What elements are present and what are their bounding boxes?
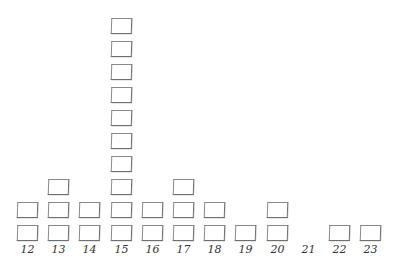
data-marker-square — [111, 179, 133, 195]
data-marker-square — [267, 202, 289, 218]
data-marker-square — [360, 225, 382, 241]
x-tick-label: 22 — [324, 243, 355, 256]
data-marker-square — [235, 225, 257, 241]
data-marker-square — [79, 225, 101, 241]
data-marker-square — [17, 225, 39, 241]
data-marker-square — [173, 179, 195, 195]
data-marker-square — [17, 202, 39, 218]
x-tick-label: 14 — [74, 243, 105, 256]
x-tick-label: 16 — [137, 243, 168, 256]
data-marker-square — [204, 202, 226, 218]
x-tick-label: 18 — [199, 243, 230, 256]
x-tick-label: 17 — [168, 243, 199, 256]
data-marker-square — [111, 87, 133, 103]
data-marker-square — [173, 225, 195, 241]
data-marker-square — [204, 225, 226, 241]
data-marker-square — [267, 225, 289, 241]
data-marker-square — [48, 179, 70, 195]
data-marker-square — [142, 225, 164, 241]
data-marker-square — [111, 110, 133, 126]
data-marker-square — [111, 202, 133, 218]
data-marker-square — [48, 202, 70, 218]
data-marker-square — [173, 202, 195, 218]
x-tick-label: 13 — [43, 243, 74, 256]
data-marker-square — [111, 64, 133, 80]
data-marker-square — [329, 225, 351, 241]
data-marker-square — [79, 202, 101, 218]
x-tick-label: 21 — [293, 243, 324, 256]
x-tick-label: 19 — [230, 243, 261, 256]
data-marker-square — [111, 156, 133, 172]
data-marker-square — [111, 18, 133, 34]
data-marker-square — [142, 202, 164, 218]
data-marker-square — [48, 225, 70, 241]
dot-plot: 121314151617181920212223 — [0, 0, 409, 274]
data-marker-square — [111, 41, 133, 57]
x-tick-label: 12 — [12, 243, 43, 256]
x-tick-label: 15 — [106, 243, 137, 256]
x-tick-label: 23 — [355, 243, 386, 256]
x-tick-label: 20 — [262, 243, 293, 256]
data-marker-square — [111, 133, 133, 149]
data-marker-square — [111, 225, 133, 241]
